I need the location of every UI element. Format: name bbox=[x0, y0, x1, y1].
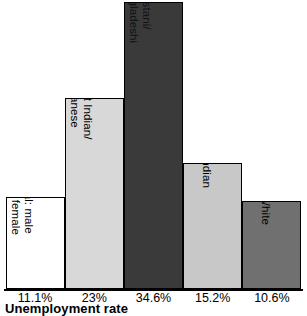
bar-label-west-indian-guyanese: West Indian/ Guyanese bbox=[69, 98, 94, 139]
bar-chart: Total: male and female West Indian/ Guya… bbox=[0, 0, 307, 316]
tick-label-white: 10.6% bbox=[242, 291, 301, 306]
bar-west-indian-guyanese: West Indian/ Guyanese bbox=[65, 98, 124, 289]
x-axis-title: Unemployment rate bbox=[5, 301, 128, 316]
bar-label-total-male-and-female: Total: male and female bbox=[10, 197, 35, 235]
bar-pakistani-bangladeshi: Pakistani/ Bangladeshi bbox=[124, 2, 183, 289]
bar-total-male-and-female: Total: male and female bbox=[6, 197, 65, 289]
tick-label-indian: 15.2% bbox=[183, 291, 242, 306]
tick-label-pakistani-bangladeshi: 34.6% bbox=[124, 291, 183, 306]
bar-label-line1: West Indian/ bbox=[82, 98, 94, 139]
bar-label-pakistani-bangladeshi: Pakistani/ Bangladeshi bbox=[128, 2, 153, 43]
bar-label-indian: Indian bbox=[200, 163, 213, 188]
bar-label-line2: Bangladeshi bbox=[128, 2, 141, 43]
bar-label-white: White bbox=[259, 201, 272, 225]
bar-label-line1: White bbox=[260, 201, 272, 225]
plot-area: Total: male and female West Indian/ Guya… bbox=[0, 0, 307, 290]
bar-white: White bbox=[242, 201, 301, 289]
bar-label-line2: and female bbox=[10, 197, 23, 235]
bar-label-line1: Pakistani/ bbox=[141, 2, 153, 30]
bar-label-line2: Guyanese bbox=[69, 98, 82, 139]
bar-label-line1: Total: male bbox=[23, 197, 35, 234]
bar-label-line1: Indian bbox=[201, 163, 213, 188]
bar-indian: Indian bbox=[183, 163, 242, 289]
